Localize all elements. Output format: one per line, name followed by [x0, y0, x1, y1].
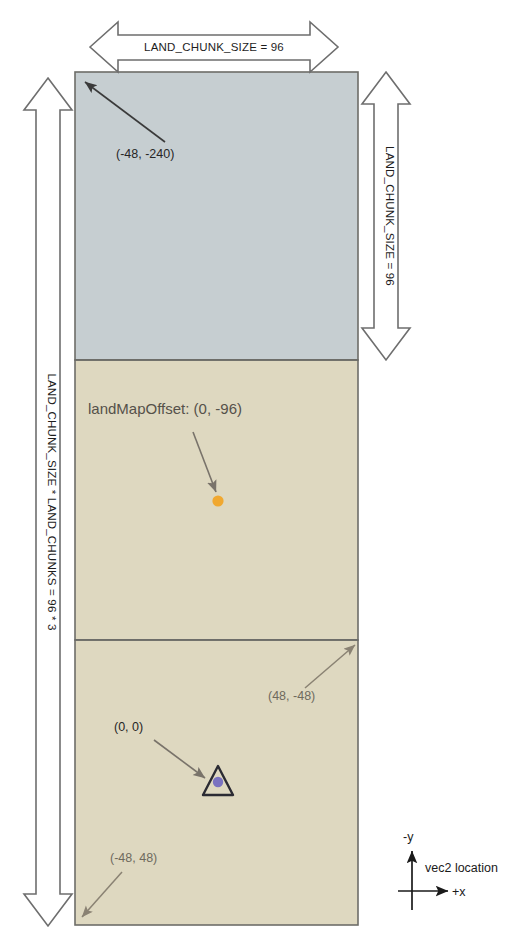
diagram-canvas: LAND_CHUNK_SIZE = 96 LAND_CHUNK_SIZE = 9…	[0, 0, 513, 946]
left-height-arrow: LAND_CHUNK_SIZE * LAND_CHUNKS = 96 * 3	[24, 78, 72, 926]
right-height-arrow: LAND_CHUNK_SIZE = 96	[362, 72, 410, 360]
origin-dot	[213, 777, 223, 787]
coord-label-mid-right: (48, -48)	[268, 689, 315, 703]
left-height-label: LAND_CHUNK_SIZE * LAND_CHUNKS = 96 * 3	[46, 373, 58, 630]
coord-label-top-left: (-48, -240)	[116, 147, 174, 161]
axis-legend: -y +x vec2 location	[398, 830, 498, 910]
top-width-arrow: LAND_CHUNK_SIZE = 96	[90, 22, 338, 72]
axis-legend-caption: vec2 location	[425, 861, 498, 875]
top-width-label: LAND_CHUNK_SIZE = 96	[144, 41, 284, 53]
diagram-svg: LAND_CHUNK_SIZE = 96 LAND_CHUNK_SIZE = 9…	[0, 0, 513, 946]
axis-label-positive-x: +x	[452, 885, 466, 899]
land-map-offset-dot	[212, 495, 223, 506]
right-height-label: LAND_CHUNK_SIZE = 96	[384, 146, 396, 286]
axis-label-negative-y: -y	[403, 830, 414, 844]
coord-label-bottom-left: (-48, 48)	[110, 851, 157, 865]
land-map-offset-label: landMapOffset: (0, -96)	[88, 400, 242, 417]
chunk-top	[75, 72, 358, 360]
coord-label-origin: (0, 0)	[114, 720, 143, 734]
